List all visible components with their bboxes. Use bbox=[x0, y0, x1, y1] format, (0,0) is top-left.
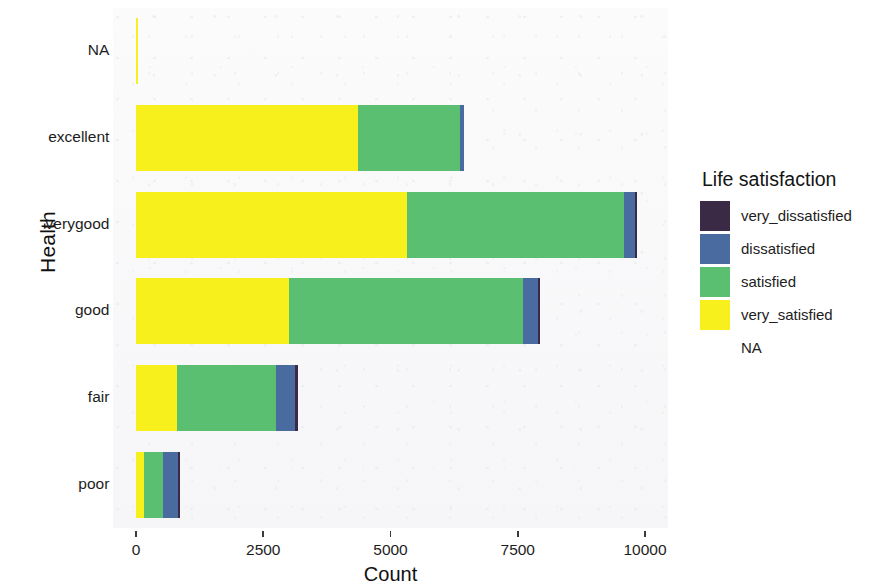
bar-segment-satisfied bbox=[177, 365, 277, 431]
x-axis-title: Count bbox=[113, 563, 668, 586]
bar-segment-dissatisfied bbox=[163, 452, 178, 518]
bar-segment-dissatisfied bbox=[624, 192, 635, 258]
bar-group-poor bbox=[113, 452, 668, 518]
legend-swatch-very_satisfied bbox=[700, 300, 730, 330]
x-tick-label-10000: 10000 bbox=[623, 541, 666, 559]
y-tick-label: poor bbox=[78, 475, 109, 492]
y-tick-label: NA bbox=[88, 41, 110, 58]
y-axis-tick-labels: NA–excellent–verygood–good–fair–poor– bbox=[0, 0, 122, 535]
legend-item-very_dissatisfied[interactable]: very_dissatisfied bbox=[700, 199, 871, 232]
x-tick-mark-5000 bbox=[390, 531, 392, 537]
chart-figure: Health NA–excellent–verygood–good–fair–p… bbox=[0, 0, 871, 586]
bar-segment-satisfied bbox=[289, 278, 523, 344]
legend-swatch-dissatisfied bbox=[700, 234, 730, 264]
plot-panel bbox=[113, 8, 668, 528]
bar-segment-dissatisfied bbox=[523, 278, 538, 344]
x-tick-mark-0 bbox=[135, 531, 137, 537]
bar-group-na bbox=[113, 18, 668, 84]
legend-item-very_satisfied[interactable]: very_satisfied bbox=[700, 298, 871, 331]
bar-group-verygood bbox=[113, 192, 668, 258]
x-tick-label-7500: 7500 bbox=[501, 541, 535, 559]
legend-label-very_satisfied: very_satisfied bbox=[741, 306, 833, 323]
y-tick-verygood: verygood– bbox=[12, 215, 122, 233]
legend-swatch-NA bbox=[700, 333, 730, 363]
bar-segment-very_dissatisfied bbox=[295, 365, 298, 431]
bar-segment-very_satisfied bbox=[136, 452, 144, 518]
legend-item-dissatisfied[interactable]: dissatisfied bbox=[700, 232, 871, 265]
x-tick-label-5000: 5000 bbox=[373, 541, 407, 559]
y-tick-label: verygood bbox=[46, 215, 110, 232]
y-tick-na: NA– bbox=[12, 41, 122, 59]
bar-segment-very_dissatisfied bbox=[538, 278, 540, 344]
bar-group-good bbox=[113, 278, 668, 344]
bar-segment-dissatisfied bbox=[460, 105, 464, 171]
legend-label-satisfied: satisfied bbox=[741, 273, 796, 290]
bar-segment-very_satisfied bbox=[136, 365, 177, 431]
x-tick-mark-7500 bbox=[517, 531, 519, 537]
legend-title: Life satisfaction bbox=[702, 168, 871, 191]
legend-label-NA: NA bbox=[741, 339, 762, 356]
bar-segment-dissatisfied bbox=[276, 365, 294, 431]
bar-segment-satisfied bbox=[144, 452, 163, 518]
x-tick-label-0: 0 bbox=[132, 541, 141, 559]
x-tick-mark-2500 bbox=[262, 531, 264, 537]
bar-segment-very_satisfied bbox=[136, 18, 138, 84]
y-tick-label: good bbox=[75, 301, 109, 318]
legend-items: very_dissatisfieddissatisfiedsatisfiedve… bbox=[700, 199, 871, 364]
x-tick-label-2500: 2500 bbox=[246, 541, 280, 559]
bar-segment-satisfied bbox=[358, 105, 460, 171]
legend: Life satisfaction very_dissatisfieddissa… bbox=[700, 168, 871, 364]
legend-item-satisfied[interactable]: satisfied bbox=[700, 265, 871, 298]
bar-segment-satisfied bbox=[407, 192, 624, 258]
bar-segment-very_dissatisfied bbox=[178, 452, 180, 518]
y-tick-fair: fair– bbox=[12, 388, 122, 406]
bar-group-excellent bbox=[113, 105, 668, 171]
legend-swatch-very_dissatisfied bbox=[700, 201, 730, 231]
bar-group-fair bbox=[113, 365, 668, 431]
y-tick-excellent: excellent– bbox=[12, 128, 122, 146]
panel-texture bbox=[113, 8, 668, 528]
legend-item-NA[interactable]: NA bbox=[700, 331, 871, 364]
legend-label-very_dissatisfied: very_dissatisfied bbox=[741, 207, 852, 224]
y-tick-poor: poor– bbox=[12, 475, 122, 493]
legend-swatch-satisfied bbox=[700, 267, 730, 297]
bar-segment-very_dissatisfied bbox=[635, 192, 637, 258]
y-tick-good: good– bbox=[12, 301, 122, 319]
bar-segment-very_satisfied bbox=[136, 105, 358, 171]
y-tick-label: excellent bbox=[48, 128, 109, 145]
x-tick-mark-10000 bbox=[644, 531, 646, 537]
bar-segment-very_satisfied bbox=[136, 278, 289, 344]
bar-segment-very_satisfied bbox=[136, 192, 407, 258]
legend-label-dissatisfied: dissatisfied bbox=[741, 240, 815, 257]
y-tick-label: fair bbox=[88, 388, 110, 405]
